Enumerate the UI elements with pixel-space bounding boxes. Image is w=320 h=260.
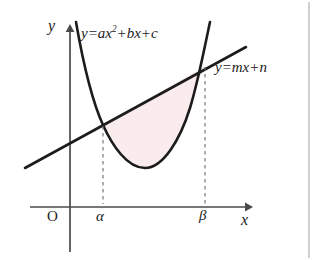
y-axis-arrowhead-icon [66,24,75,32]
y-axis-label: y [48,18,55,34]
line-equation-label: y=mx+n [215,60,267,75]
parabola-equation-tail: +bx+c [117,25,158,41]
figure-container: y=ax2+bx+c y=mx+n y x O α β [0,0,320,260]
parabola-equation-label: y=ax2+bx+c [81,25,158,41]
origin-label: O [47,209,58,224]
x-axis-label: x [241,212,248,228]
parabola-equation-head: y=ax [81,25,112,41]
alpha-tick-label: α [96,209,104,224]
beta-tick-label: β [199,208,206,223]
